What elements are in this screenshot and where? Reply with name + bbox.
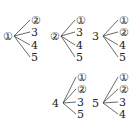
tree-leaf-label: 5: [119, 51, 126, 64]
tree-branch-line: [103, 36, 118, 45]
tree-branch-line: [14, 36, 30, 57]
tree-root-label: 3: [92, 30, 99, 43]
tree-diagram-canvas: ①②345②①3453①②454①②355①②34: [0, 0, 133, 126]
tree-3: 3①②45: [92, 14, 129, 64]
tree-leaf-label: 3: [31, 26, 38, 39]
tree-root-label: 5: [92, 97, 99, 110]
tree-leaf-label: ②: [77, 83, 87, 96]
tree-root-label: ①: [3, 30, 13, 43]
tree-branch-line: [103, 103, 118, 114]
tree-branch-line: [103, 89, 118, 103]
tree-1: ①②345: [3, 14, 41, 64]
tree-branch-line: [63, 102, 76, 103]
tree-branch-line: [63, 77, 76, 103]
tree-root-label: 4: [52, 97, 59, 110]
tree-branch-line: [103, 102, 118, 103]
tree-5: 5①②34: [92, 71, 129, 121]
tree-leaf-label: 3: [76, 26, 83, 39]
tree-leaf-label: ②: [119, 26, 129, 39]
tree-2: ②①345: [50, 14, 86, 64]
tree-4: 4①②35: [52, 71, 87, 121]
tree-branch-line: [103, 77, 118, 103]
tree-leaf-label: 5: [31, 51, 38, 64]
tree-branch-line: [61, 36, 75, 45]
tree-branch-line: [14, 36, 30, 45]
tree-leaf-label: 4: [119, 108, 126, 121]
tree-branch-line: [63, 89, 76, 103]
tree-leaf-label: 5: [77, 108, 84, 121]
tree-branch-line: [63, 103, 76, 114]
tree-root-label: ②: [50, 30, 60, 43]
tree-leaf-label: ②: [119, 83, 129, 96]
tree-branch-line: [61, 36, 75, 57]
tree-branch-line: [103, 36, 118, 57]
tree-leaf-label: 5: [76, 51, 83, 64]
